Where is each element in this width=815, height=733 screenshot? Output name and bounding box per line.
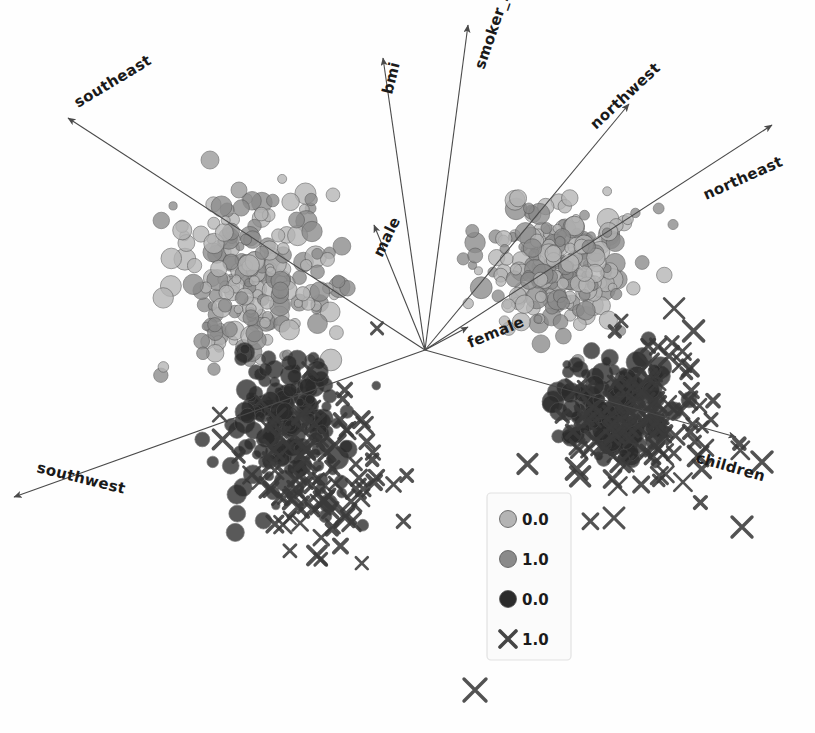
data-point-circle	[500, 244, 509, 253]
data-point-circle	[523, 203, 534, 214]
data-point-circle	[215, 223, 233, 241]
data-point-circle	[296, 398, 304, 406]
data-point-circle	[201, 151, 219, 169]
data-point-circle	[252, 450, 261, 459]
data-point-circle	[218, 299, 231, 312]
data-point-circle	[283, 383, 297, 397]
data-point-circle	[296, 287, 310, 301]
data-point-circle	[557, 278, 568, 289]
data-point-circle	[553, 315, 568, 330]
data-point-circle	[260, 296, 274, 310]
data-point-circle	[243, 310, 259, 326]
data-point-circle	[289, 212, 305, 228]
legend: 0.01.00.01.0	[487, 493, 571, 660]
data-point-circle	[635, 256, 649, 270]
data-point-circle	[532, 335, 550, 353]
data-point-circle	[535, 291, 546, 302]
data-point-circle	[533, 272, 547, 286]
data-point-circle	[300, 259, 311, 270]
pca-biplot-figure: southeastbmismoker_2northwestnortheastma…	[0, 0, 815, 733]
data-point-circle	[153, 212, 169, 228]
data-point-circle	[278, 174, 287, 183]
legend-label-2: 0.0	[522, 591, 549, 609]
data-point-circle	[580, 210, 590, 220]
data-point-circle	[577, 266, 593, 282]
data-point-circle	[254, 207, 268, 221]
data-point-circle	[523, 239, 542, 258]
data-point-circle	[565, 243, 576, 254]
legend-marker-circle	[500, 591, 517, 608]
data-point-circle	[563, 360, 571, 368]
data-point-circle	[611, 288, 622, 299]
legend-label-0: 0.0	[522, 511, 549, 529]
data-point-circle	[208, 363, 220, 375]
data-point-circle	[463, 298, 473, 308]
data-point-circle	[259, 363, 272, 376]
data-point-circle	[510, 190, 527, 207]
data-point-circle	[496, 277, 506, 287]
data-point-circle	[173, 221, 192, 240]
data-point-circle	[266, 267, 276, 277]
data-point-circle	[561, 254, 579, 272]
data-point-circle	[226, 523, 244, 541]
data-point-circle	[326, 188, 340, 202]
data-point-circle	[545, 245, 562, 262]
data-point-circle	[305, 193, 317, 205]
data-point-circle	[502, 299, 516, 313]
data-point-circle	[627, 282, 640, 295]
data-point-circle	[333, 237, 351, 255]
data-point-circle	[466, 224, 479, 237]
data-point-circle	[169, 202, 177, 210]
data-point-circle	[293, 271, 307, 285]
data-point-circle	[207, 456, 219, 468]
scatter-plot-canvas: southeastbmismoker_2northwestnortheastma…	[0, 0, 815, 733]
data-point-circle	[240, 344, 250, 354]
data-point-circle	[282, 193, 300, 211]
legend-label-3: 1.0	[522, 631, 549, 649]
data-point-circle	[266, 194, 279, 207]
data-point-circle	[576, 301, 595, 320]
data-point-circle	[510, 264, 521, 275]
data-point-circle	[197, 347, 210, 360]
data-point-circle	[235, 292, 248, 305]
data-point-circle	[211, 260, 227, 276]
data-point-circle	[249, 276, 259, 286]
data-point-circle	[272, 282, 288, 298]
data-point-circle	[329, 326, 343, 340]
data-point-circle	[277, 243, 289, 255]
legend-marker-circle	[500, 511, 517, 528]
data-point-circle	[279, 320, 299, 340]
data-point-circle	[657, 267, 673, 283]
data-point-circle	[323, 389, 337, 403]
data-point-circle	[603, 187, 612, 196]
data-point-circle	[246, 325, 263, 342]
data-point-circle	[187, 258, 201, 272]
data-point-circle	[234, 305, 243, 314]
data-point-circle	[500, 252, 513, 265]
data-point-circle	[308, 314, 328, 334]
data-point-circle	[312, 248, 323, 259]
data-point-circle	[555, 236, 565, 246]
legend-marker-circle	[500, 551, 517, 568]
data-point-circle	[158, 362, 169, 373]
data-point-circle	[310, 282, 330, 302]
data-point-circle	[222, 322, 237, 337]
data-point-circle	[534, 315, 542, 323]
data-point-circle	[255, 246, 268, 259]
data-point-circle	[372, 381, 381, 390]
data-point-circle	[232, 275, 241, 284]
data-point-circle	[282, 355, 297, 370]
data-point-circle	[562, 190, 579, 207]
data-point-circle	[302, 221, 322, 241]
data-point-circle	[161, 248, 182, 269]
data-point-circle	[238, 255, 260, 277]
data-point-circle	[219, 285, 234, 300]
data-point-circle	[153, 288, 173, 308]
data-point-circle	[668, 219, 678, 229]
data-point-circle	[468, 248, 483, 263]
data-point-circle	[195, 432, 210, 447]
data-point-circle	[653, 203, 664, 214]
data-point-circle	[288, 369, 302, 383]
legend-label-1: 1.0	[522, 551, 549, 569]
data-point-circle	[231, 182, 247, 198]
